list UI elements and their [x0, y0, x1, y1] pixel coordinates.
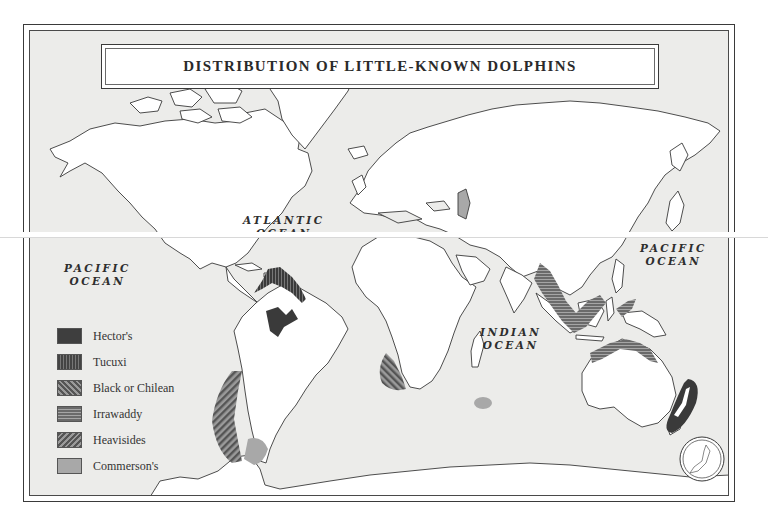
ocean-label-pacific-east: PACIFIC OCEAN: [640, 242, 707, 268]
swatch-diagonal-stripes-icon: [57, 380, 82, 396]
swatch-vertical-stripes-icon: [57, 354, 82, 370]
title-box: DISTRIBUTION OF LITTLE-KNOWN DOLPHINS: [101, 44, 659, 89]
legend-item-tucuxi: Tucuxi: [57, 349, 174, 375]
legend-item-hectors: Hector's: [57, 323, 174, 349]
north-america: [50, 109, 312, 269]
new-guinea: [622, 311, 666, 337]
legend-item-heavisides: Heavisides: [57, 427, 174, 453]
swatch-horizontal-stripes-icon: [57, 406, 82, 422]
swatch-diagonal-stripes-up-icon: [57, 432, 82, 448]
legend-item-commersons: Commerson's: [57, 453, 174, 479]
ocean-label-pacific-west: PACIFIC OCEAN: [64, 262, 131, 288]
swatch-solid-dark-icon: [57, 328, 82, 344]
legend-item-irrawaddy: Irrawaddy: [57, 401, 174, 427]
japan-inset: [680, 437, 724, 481]
ocean-label-indian: INDIAN OCEAN: [480, 326, 541, 352]
legend: Hector's Tucuxi Black or Chilean Irrawad…: [57, 323, 174, 479]
page-title: DISTRIBUTION OF LITTLE-KNOWN DOLPHINS: [183, 58, 576, 75]
swatch-solid-light-icon: [57, 458, 82, 474]
scan-artifact-shadow: [0, 237, 768, 238]
legend-item-chilean: Black or Chilean: [57, 375, 174, 401]
chilean-range: [212, 371, 242, 463]
commersons-kerguelen: [474, 397, 492, 409]
